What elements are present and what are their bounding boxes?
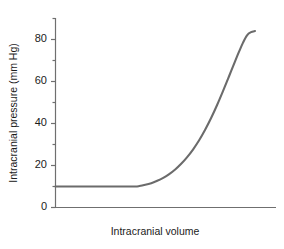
x-axis-title: Intracranial volume [111, 225, 200, 237]
chart-container: 0 20 40 60 80 Intracranial pressure (mm … [0, 0, 284, 249]
y-tick-label-20: 20 [35, 158, 47, 170]
data-curve-intracranial-pressure [56, 31, 256, 186]
y-tick-label-40: 40 [35, 116, 47, 128]
y-tick-label-60: 60 [35, 74, 47, 86]
pressure-volume-chart: 0 20 40 60 80 Intracranial pressure (mm … [0, 0, 284, 249]
y-tick-label-80: 80 [35, 32, 47, 44]
y-axis-major-ticks [51, 40, 56, 208]
y-tick-label-0: 0 [41, 200, 47, 212]
y-axis-title: Intracranial pressure (mm Hg) [7, 43, 19, 182]
